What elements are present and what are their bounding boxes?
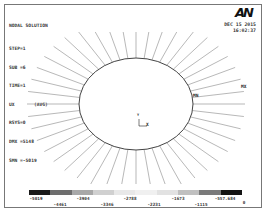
legend-label: -1673 — [172, 196, 185, 201]
displacement-vector — [179, 134, 218, 162]
displacement-vector — [173, 139, 207, 171]
displacement-vector — [65, 139, 99, 171]
legend-band-6 — [157, 190, 178, 195]
displacement-vector — [79, 32, 105, 65]
displacement-vector — [110, 32, 120, 60]
displacement-vector — [167, 32, 193, 65]
legend-label: -3904 — [77, 196, 90, 201]
legend-band-9 — [221, 190, 242, 195]
min-marker: MN — [193, 93, 198, 98]
displacement-vector — [122, 150, 128, 184]
legend-label: -2788 — [124, 196, 137, 201]
displacement-vector — [28, 91, 79, 97]
legend-band-1 — [50, 190, 71, 195]
legend-band-8 — [199, 190, 220, 195]
legend-label: -4461 — [54, 202, 67, 207]
contour-legend-bar — [29, 190, 242, 195]
displacement-vectors — [27, 32, 245, 184]
displacement-vector — [184, 129, 228, 152]
deformed-ring — [79, 58, 193, 150]
displacement-vector — [144, 32, 149, 58]
triad-y-label: Y — [137, 113, 139, 117]
displacement-vector — [54, 134, 93, 162]
legend-label: -2231 — [148, 202, 161, 207]
displacement-vector — [179, 46, 218, 74]
displacement-vector — [184, 56, 228, 79]
displacement-vector — [192, 111, 243, 117]
legend-band-0 — [29, 190, 50, 195]
displacement-plot — [0, 0, 266, 215]
displacement-vector — [54, 46, 93, 74]
displacement-vector — [107, 148, 120, 184]
legend-band-4 — [114, 190, 135, 195]
legend-band-5 — [135, 190, 156, 195]
legend-label: -1115 — [195, 202, 208, 207]
displacement-vector — [44, 129, 88, 152]
displacement-vector — [44, 56, 88, 79]
legend-label: 0 — [243, 200, 246, 205]
displacement-vector — [192, 91, 243, 97]
legend-band-2 — [72, 190, 93, 195]
displacement-vector — [160, 32, 177, 62]
max-marker: MX — [241, 84, 246, 89]
displacement-vector — [77, 143, 105, 178]
displacement-vector — [167, 143, 195, 178]
triad-x-label: X — [146, 122, 149, 127]
displacement-vector — [123, 32, 128, 58]
displacement-vector — [173, 37, 207, 69]
legend-band-3 — [93, 190, 114, 195]
legend-label: -557.684 — [215, 196, 236, 201]
displacement-vector — [28, 111, 79, 117]
displacement-vector — [95, 32, 112, 62]
displacement-vector — [152, 148, 165, 184]
legend-label: -5019 — [30, 196, 43, 201]
displacement-vector — [144, 150, 150, 184]
displacement-vector — [65, 37, 99, 69]
legend-label: -3346 — [101, 202, 114, 207]
displacement-vector — [152, 32, 162, 60]
legend-band-7 — [178, 190, 199, 195]
